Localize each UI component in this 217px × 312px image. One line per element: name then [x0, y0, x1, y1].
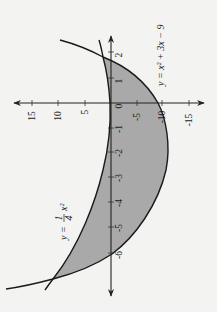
svg-text:2: 2	[114, 52, 124, 57]
svg-text:-4: -4	[114, 199, 124, 207]
svg-text:5: 5	[80, 109, 90, 114]
svg-text:0: 0	[114, 103, 124, 108]
svg-text:1: 1	[114, 78, 124, 83]
svg-text:-5: -5	[132, 113, 142, 121]
svg-text:-5: -5	[114, 224, 124, 232]
graph-figure: 2 1 0 -1 -2 -3 -4 -5 -6 15 10 5 -5 -10 -…	[0, 0, 217, 312]
svg-text:10: 10	[53, 111, 63, 121]
svg-text:-3: -3	[114, 174, 124, 182]
svg-text:y =: y =	[58, 226, 69, 241]
svg-text:-1: -1	[114, 125, 124, 133]
svg-text:x²: x²	[58, 203, 69, 212]
svg-text:-2: -2	[114, 149, 124, 157]
svg-text:4: 4	[63, 216, 74, 221]
label-quarter-x-squared: y = 1 4 x²	[53, 203, 74, 241]
svg-text:15: 15	[27, 111, 37, 121]
svg-text:-15: -15	[184, 113, 194, 126]
x-axis-labels: 2 1 0 -1 -2 -3 -4 -5 -6	[114, 52, 124, 259]
label-x-squared-plus-3x-minus-9: y = x² + 3x − 9	[155, 24, 166, 87]
